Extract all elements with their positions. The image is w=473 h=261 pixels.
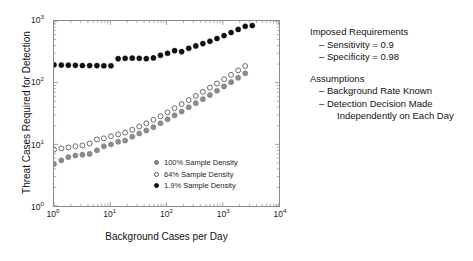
chart-figure: 103 102 101 100 100 101 102 103 104 Back… xyxy=(0,0,473,261)
assumption-background-rate: – Background Rate Known xyxy=(310,85,470,98)
x-tick-label-3: 103 xyxy=(217,210,230,219)
x-tick-label-2: 102 xyxy=(160,210,173,219)
side-annotations: Imposed Requirements – Sensitivity = 0.9… xyxy=(310,26,470,132)
x-axis-title: Background Cases per Day xyxy=(53,231,280,242)
legend-marker-open-circle-icon xyxy=(151,172,161,177)
legend-item: 64% Sample Density xyxy=(151,169,238,180)
legend-marker-filled-black-icon xyxy=(151,183,161,188)
imposed-requirements-block: Imposed Requirements – Sensitivity = 0.9… xyxy=(310,26,470,64)
y-tick-label-1: 101 xyxy=(31,140,44,149)
y-tick-label-0: 100 xyxy=(31,203,44,212)
requirement-sensitivity: – Sensitivity = 0.9 xyxy=(310,39,470,52)
assumptions-title: Assumptions xyxy=(310,73,470,86)
legend-item: 1.9% Sample Density xyxy=(151,180,238,191)
legend-item-label: 100% Sample Density xyxy=(164,158,238,167)
legend-item-label: 64% Sample Density xyxy=(164,170,234,179)
assumption-detection-decision-line1: – Detection Decision Made xyxy=(319,98,470,111)
legend-item: 100% Sample Density xyxy=(151,157,238,168)
assumption-detection-decision: – Detection Decision Made Independently … xyxy=(310,98,470,123)
x-tick-label-1: 101 xyxy=(103,210,116,219)
x-tick-label-0: 100 xyxy=(47,210,60,219)
x-tick-label-4: 104 xyxy=(274,210,287,219)
requirement-specificity: – Specificity = 0.98 xyxy=(310,51,470,64)
assumptions-block: Assumptions – Background Rate Known – De… xyxy=(310,73,470,123)
series-1 xyxy=(54,64,248,153)
y-tick-label-2: 102 xyxy=(31,78,44,87)
legend-item-label: 1.9% Sample Density xyxy=(164,181,236,190)
legend-marker-filled-gray-icon xyxy=(151,160,161,165)
y-axis-title: Threat Cases Required for Detection xyxy=(21,13,32,213)
assumption-detection-decision-line2: Independently on Each Day xyxy=(319,110,470,123)
series-2 xyxy=(54,23,255,68)
y-tick-label-3: 103 xyxy=(31,16,44,25)
chart-legend: 100% Sample Density 64% Sample Density 1… xyxy=(151,157,238,192)
imposed-requirements-title: Imposed Requirements xyxy=(310,26,470,39)
